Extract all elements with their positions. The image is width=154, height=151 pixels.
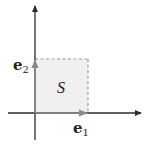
e1-label: e1 (73, 119, 89, 138)
e1-label-base: e (73, 119, 83, 137)
region-s-label: S (57, 79, 65, 96)
e1-label-subscript: 1 (83, 127, 89, 138)
e2-label: e2 (13, 56, 29, 75)
e2-label-subscript: 2 (23, 64, 29, 75)
e2-label-base: e (13, 56, 23, 74)
basis-square-diagram: e2 S e1 (0, 0, 154, 151)
